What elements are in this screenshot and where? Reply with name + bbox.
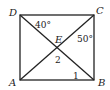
vertex-label-d: D <box>8 7 17 18</box>
vertex-label-a: A <box>8 77 16 88</box>
geometry-diagram: D C A B E 40° 50° 2 1 <box>0 0 110 90</box>
vertex-label-c: C <box>96 5 104 16</box>
angle-label-1: 1 <box>73 71 79 81</box>
angle-label-50: 50° <box>77 34 93 44</box>
angle-label-2: 2 <box>55 55 61 65</box>
angle-label-40: 40° <box>35 20 51 30</box>
vertex-label-b: B <box>97 77 105 88</box>
intersection-label-e: E <box>54 34 63 45</box>
figure-lines <box>20 15 94 80</box>
